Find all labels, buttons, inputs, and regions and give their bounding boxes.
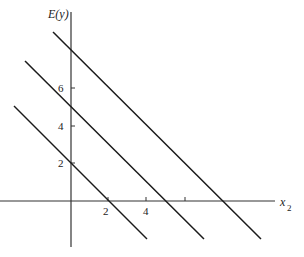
x-tick-label-2: 2 — [103, 205, 109, 217]
line-1 — [14, 106, 147, 239]
y-tick-label-2: 2 — [58, 157, 64, 169]
x-tick-label-4: 4 — [143, 205, 149, 217]
x-axis-label: x — [279, 195, 286, 209]
y-tick-label-4: 4 — [58, 120, 64, 132]
y-axis-label: E(y) — [47, 7, 69, 21]
x-axis-subscript: 2 — [287, 203, 292, 213]
diagram-canvas: E(y) x 2 2 4 6 2 4 — [0, 0, 304, 257]
y-tick-label-6: 6 — [58, 82, 64, 94]
line-3 — [53, 32, 261, 239]
line-2 — [25, 61, 204, 239]
